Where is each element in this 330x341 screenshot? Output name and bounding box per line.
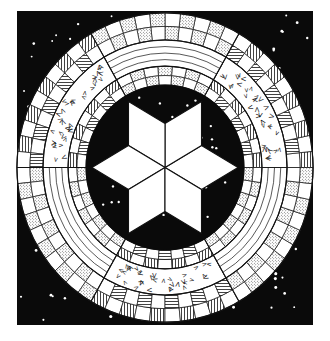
sky-star-dot — [159, 102, 161, 104]
sky-star-dot — [171, 116, 173, 118]
checker-cell — [286, 168, 300, 183]
chevron-mark: > — [242, 87, 250, 93]
chevron-mark: V — [152, 272, 157, 280]
sky-star-dot — [55, 34, 57, 36]
sky-star-dot — [64, 297, 66, 299]
sky-star-dot — [270, 307, 272, 309]
sky-star-dot — [273, 49, 275, 51]
checker-cell — [151, 294, 165, 308]
checker-cell — [158, 259, 172, 269]
sky-star-dot — [112, 185, 114, 187]
chevron-mark: V — [223, 73, 228, 81]
checker-cell — [30, 153, 44, 168]
checker-cell — [158, 250, 171, 260]
chevron-mark: > — [159, 278, 168, 284]
checker-cell — [77, 154, 87, 168]
checker-cell — [77, 168, 87, 182]
checker-cell — [243, 168, 253, 182]
checker-cell — [165, 13, 180, 27]
checker-cell — [243, 154, 253, 168]
sky-star-dot — [280, 30, 283, 33]
sky-star-dot — [281, 277, 283, 279]
checker-cell — [252, 168, 262, 183]
sky-star-dot — [109, 315, 112, 318]
sky-star-dot — [20, 296, 22, 298]
sky-star-dot — [285, 14, 287, 16]
checker-cell — [286, 153, 300, 168]
chevron-mark: < — [275, 147, 284, 154]
checker-cell — [252, 152, 262, 167]
sky-star-dot — [232, 306, 235, 309]
sky-star-dot — [206, 216, 208, 218]
sky-star-dot — [194, 99, 196, 101]
sky-star-dot — [118, 201, 120, 203]
checker-cell — [299, 151, 313, 167]
sky-star-dot — [32, 42, 35, 45]
checker-cell — [17, 168, 31, 184]
sky-star-dot — [35, 249, 38, 252]
sky-star-dot — [295, 248, 297, 250]
sky-star-dot — [283, 292, 286, 295]
sky-star-dot — [50, 294, 53, 297]
checker-cell — [151, 26, 165, 40]
checker-cell — [158, 66, 172, 76]
sky-star-dot — [224, 181, 226, 183]
sky-star-dot — [293, 306, 295, 308]
sky-star-dot — [211, 138, 213, 140]
checker-cell — [165, 294, 179, 308]
sky-star-dot — [186, 104, 188, 106]
sky-star-dot — [211, 146, 213, 148]
sky-star-dot — [274, 286, 277, 289]
sky-star-dot — [162, 214, 164, 216]
quilt-medallion-artwork: >Λ<V<Λ<ΛΛΛ<>ΛVΛ>ΛV<>>V>V<<<VΛV>VΛ>>V>ΛVV… — [0, 0, 330, 341]
sky-star-dot — [274, 277, 277, 280]
checker-cell — [17, 151, 31, 167]
chevron-mark: V — [92, 76, 97, 84]
checker-cell — [165, 308, 180, 322]
checker-cell — [165, 26, 179, 40]
sky-star-dot — [42, 319, 44, 321]
sky-star-dot — [215, 147, 217, 149]
checker-cell — [68, 152, 78, 167]
sky-star-dot — [138, 97, 140, 99]
sky-star-dot — [210, 125, 212, 127]
checker-cell — [150, 308, 165, 322]
checker-cell — [299, 168, 313, 184]
sky-star-dot — [296, 21, 299, 24]
sky-star-dot — [31, 56, 33, 58]
checker-cell — [158, 76, 171, 86]
chevron-mark: > — [206, 260, 212, 268]
sky-star-dot — [51, 40, 53, 42]
checker-cell — [150, 13, 165, 27]
checker-cell — [30, 168, 44, 183]
sky-star-dot — [111, 15, 113, 17]
chevron-mark: > — [58, 141, 64, 149]
sky-star-dot — [77, 23, 79, 25]
chevron-mark: > — [80, 90, 89, 96]
sky-star-dot — [102, 203, 104, 205]
sky-star-dot — [306, 37, 308, 39]
sky-star-dot — [111, 201, 113, 203]
sky-star-dot — [23, 90, 25, 92]
sky-star-dot — [274, 272, 277, 275]
checker-cell — [68, 168, 78, 183]
sky-star-dot — [69, 38, 71, 40]
